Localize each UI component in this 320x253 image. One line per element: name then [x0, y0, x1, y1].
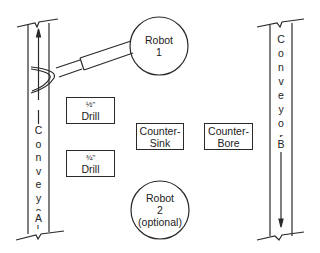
station-label-line2: Bore: [217, 137, 239, 149]
conveyor-b-label: C o n v e y o r: [274, 32, 288, 144]
letter: y: [36, 192, 41, 206]
letter: n: [278, 60, 284, 74]
station-three-quarter-inch-drill: ¾" Drill: [66, 150, 115, 177]
robot-1-label: Robot 1: [134, 34, 184, 58]
robot-1-name: Robot: [134, 34, 184, 46]
robot-2-number: 2: [131, 204, 189, 216]
letter: y: [278, 102, 283, 116]
station-label-line1: Counter-: [208, 125, 249, 137]
robot-2-label: Robot 2 (optional): [131, 192, 189, 228]
station-counter-sink: Counter- Sink: [136, 123, 184, 150]
station-label-line2: Sink: [150, 137, 170, 149]
letter: C: [277, 32, 285, 46]
letter: C: [35, 124, 43, 138]
conveyor-a-arrow-icon: [37, 29, 41, 138]
robot-1-number: 1: [134, 46, 184, 58]
letter: o: [278, 116, 284, 130]
robot-1-arm: [56, 41, 133, 77]
conveyor-a-id: A: [32, 211, 45, 225]
robot-2-optional: (optional): [131, 216, 189, 228]
conveyor-a-letter: A: [35, 211, 42, 225]
drill-label: Drill: [81, 110, 99, 122]
letter: v: [36, 165, 41, 179]
station-counter-bore: Counter- Bore: [204, 123, 253, 150]
letter: o: [278, 46, 284, 60]
drill-size: ¾": [86, 153, 96, 163]
letter: n: [36, 151, 42, 165]
conveyor-b-id: B: [274, 137, 288, 151]
conveyor-b-letter: B: [277, 137, 284, 151]
drill-size: ½": [86, 100, 96, 110]
letter: e: [36, 178, 42, 192]
letter: o: [36, 138, 42, 152]
drill-label: Drill: [81, 163, 99, 175]
station-label-line1: Counter-: [140, 125, 181, 137]
robot-2-name: Robot: [131, 192, 189, 204]
letter: v: [278, 74, 283, 88]
station-half-inch-drill: ½" Drill: [66, 97, 115, 124]
letter: e: [278, 88, 284, 102]
